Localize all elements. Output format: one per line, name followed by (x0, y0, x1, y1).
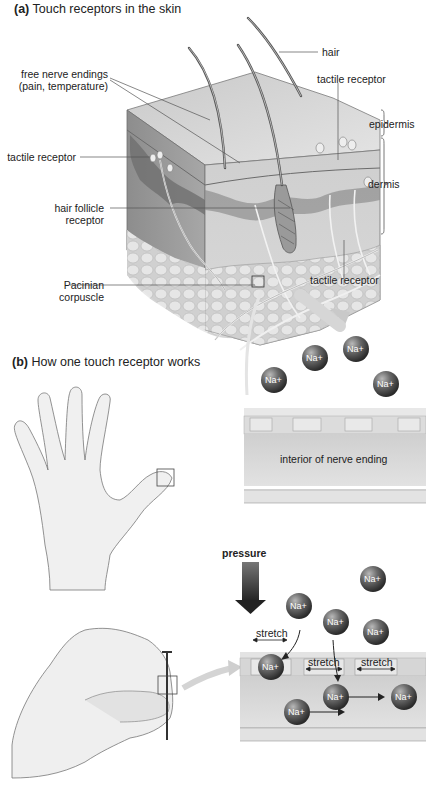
label-free-nerve-endings-line2: (pain, temperature) (18, 80, 108, 92)
na-ion-label: Na+ (347, 343, 364, 355)
na-ion-label: Na+ (306, 352, 323, 364)
label-epidermis: epidermis (369, 118, 415, 130)
na-ion-label: Na+ (367, 626, 384, 638)
na-ion-label: Na+ (327, 616, 344, 628)
na-ion-label: Na+ (288, 706, 305, 718)
label-dermis: dermis (368, 178, 400, 190)
pinching-hand-illustration (12, 628, 177, 778)
label-stretch: stretch (361, 656, 393, 668)
label-hair-follicle-line1: hair follicle (20, 202, 104, 214)
label-hair-follicle-receptor: hair follicle receptor (20, 202, 104, 226)
label-pacinian-corpuscle: Pacinian corpuscle (20, 279, 104, 303)
panel-a-title: (a) Touch receptors in the skin (14, 2, 181, 16)
panel-b-title-text: How one touch receptor works (31, 355, 200, 369)
na-ion-label: Na+ (395, 691, 412, 703)
label-hair: hair (322, 46, 340, 58)
na-ion-label: Na+ (364, 573, 381, 585)
na-ion-label: Na+ (327, 691, 344, 703)
pressure-arrow (235, 562, 266, 614)
panel-a-title-text: Touch receptors in the skin (33, 2, 182, 16)
label-free-nerve-endings: free nerve endings (pain, temperature) (18, 68, 108, 92)
label-stretch: stretch (308, 656, 340, 668)
na-ion-label: Na+ (290, 600, 307, 612)
label-hair-follicle-line2: receptor (20, 214, 104, 226)
label-tactile-receptor-left: tactile receptor (0, 151, 76, 163)
na-ion-label: Na+ (377, 378, 394, 390)
label-pacinian-line1: Pacinian (20, 279, 104, 291)
label-interior-of-nerve-ending: interior of nerve ending (280, 453, 387, 465)
label-stretch: stretch (256, 627, 288, 639)
label-free-nerve-endings-line1: free nerve endings (18, 68, 108, 80)
skin-block (127, 18, 380, 350)
label-tactile-receptor-bottom: tactile receptor (310, 274, 379, 286)
panel-b-letter: (b) (12, 355, 28, 369)
panel-a-letter: (a) (14, 2, 29, 16)
panel-b-title: (b) How one touch receptor works (12, 355, 200, 369)
na-ion-label: Na+ (265, 374, 282, 386)
label-pressure: pressure (222, 547, 266, 559)
label-tactile-receptor-top: tactile receptor (317, 73, 386, 85)
open-hand-illustration (14, 387, 174, 590)
label-pacinian-line2: corpuscle (20, 291, 104, 303)
na-ion-label: Na+ (262, 661, 279, 673)
